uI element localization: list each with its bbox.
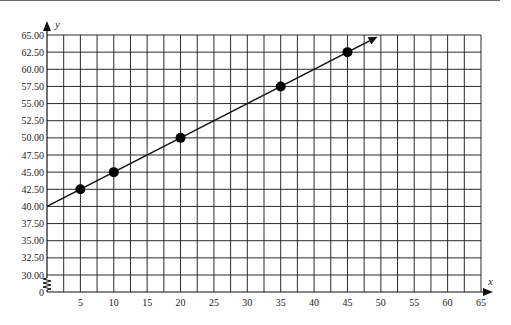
line-chart: 65.0062.5060.0057.5055.0052.5050.0047.50… — [0, 0, 511, 325]
axis-break-icon — [43, 278, 51, 290]
x-tick-label: 15 — [142, 297, 152, 308]
x-axis-arrow-icon — [483, 288, 493, 296]
y-tick-label: 30.00 — [22, 270, 45, 281]
y-axis-label: y — [54, 18, 60, 30]
x-tick-label: 60 — [443, 297, 453, 308]
trend-line — [47, 41, 370, 207]
data-point — [342, 47, 352, 57]
y-tick-label: 42.50 — [22, 184, 45, 195]
x-tick-label: 30 — [242, 297, 252, 308]
y-tick-label: 40.00 — [22, 201, 45, 212]
x-tick-labels: 5101520253035404550556065 — [78, 297, 486, 308]
y-tick-label: 65.00 — [22, 30, 45, 41]
y-tick-labels: 65.0062.5060.0057.5055.0052.5050.0047.50… — [22, 30, 45, 298]
x-tick-label: 25 — [209, 297, 219, 308]
data-point — [176, 133, 186, 143]
y-tick-label: 60.00 — [22, 64, 45, 75]
x-tick-label: 35 — [276, 297, 286, 308]
x-tick-label: 65 — [476, 297, 486, 308]
y-tick-label: 0 — [39, 287, 44, 298]
x-tick-label: 40 — [309, 297, 319, 308]
y-tick-label: 35.00 — [22, 235, 45, 246]
y-tick-label: 37.50 — [22, 218, 45, 229]
data-series — [47, 37, 378, 207]
x-tick-label: 10 — [109, 297, 119, 308]
y-tick-label: 32.50 — [22, 252, 45, 263]
data-point — [109, 167, 119, 177]
y-axis-arrow-icon — [43, 21, 51, 31]
axes — [43, 21, 493, 296]
x-tick-label: 50 — [376, 297, 386, 308]
x-tick-label: 5 — [78, 297, 83, 308]
data-point — [75, 184, 85, 194]
y-tick-label: 57.50 — [22, 81, 45, 92]
y-tick-label: 45.00 — [22, 167, 45, 178]
y-tick-label: 47.50 — [22, 150, 45, 161]
x-tick-label: 20 — [176, 297, 186, 308]
x-axis-label: x — [487, 275, 493, 287]
y-tick-label: 62.50 — [22, 47, 45, 58]
y-tick-label: 52.50 — [22, 115, 45, 126]
grid — [47, 35, 481, 292]
y-tick-label: 50.00 — [22, 132, 45, 143]
data-point — [276, 81, 286, 91]
x-tick-label: 55 — [409, 297, 419, 308]
y-tick-label: 55.00 — [22, 98, 45, 109]
x-tick-label: 45 — [342, 297, 352, 308]
